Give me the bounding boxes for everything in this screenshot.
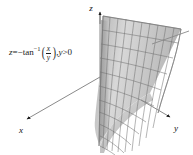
surface-3d [95, 16, 181, 155]
x-axis-label: x [18, 125, 23, 135]
fraction-denominator: y [46, 54, 51, 62]
surface-plot-figure: z x y z=−tan−1(xy),y>0 [0, 0, 193, 155]
equation-caption: z=−tan−1(xy),y>0 [9, 45, 72, 62]
equation-paren-close: ) [52, 46, 55, 60]
equation-exponent: −1 [34, 45, 41, 52]
y-axis-label: y [173, 123, 178, 133]
equation-paren-open: ( [41, 46, 44, 60]
x-axis-line [27, 77, 100, 119]
z-axis-label: z [88, 3, 93, 13]
surface-plot-canvas: z x y [0, 0, 193, 155]
domain-value: 0 [68, 47, 73, 57]
equation-function-name: tan [23, 47, 34, 57]
equation-fraction: xy [46, 45, 51, 62]
